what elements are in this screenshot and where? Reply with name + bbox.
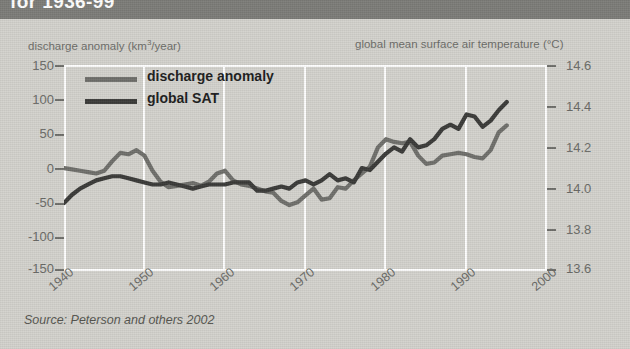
tick-right-14-0 [547, 188, 556, 190]
legend-label-discharge: discharge anomaly [147, 68, 274, 84]
legend: discharge anomaly global SAT [85, 69, 305, 113]
ytick-label-m50: -50 [8, 195, 54, 210]
tick-left-0 [55, 168, 64, 170]
line-discharge-anomaly [64, 125, 507, 205]
title-bar: for 1936-99 [0, 0, 630, 19]
legend-swatch-sat [85, 99, 137, 104]
tick-left-100 [55, 99, 64, 101]
tick-right-13-8 [547, 229, 556, 231]
tick-left-50 [55, 134, 64, 136]
ytick-label-m100: -100 [8, 229, 54, 244]
y2tick-label-14-2: 14.2 [566, 140, 591, 155]
ytick-label-m150: -150 [8, 261, 54, 276]
right-axis-title: global mean surface air temperature (°C) [355, 38, 564, 50]
y2tick-label-14-0: 14.0 [566, 181, 591, 196]
y2tick-label-13-6: 13.6 [566, 261, 591, 276]
y2tick-label-14-6: 14.6 [566, 58, 591, 73]
tick-right-14-2 [547, 147, 556, 149]
tick-right-14-4 [547, 106, 556, 108]
tick-left-m50 [55, 203, 64, 205]
tick-left-150 [55, 65, 64, 67]
tick-right-14-6 [547, 65, 556, 67]
y2tick-label-14-4: 14.4 [566, 99, 591, 114]
tick-left-m100 [55, 237, 64, 239]
ytick-label-0: 0 [8, 161, 54, 176]
figure-panel: for 1936-99 discharge anomaly (km3/year)… [0, 0, 630, 349]
ytick-label-50: 50 [8, 126, 54, 141]
plot-area: discharge anomaly global SAT [64, 65, 547, 271]
left-axis-title: discharge anomaly (km3/year) [28, 38, 181, 52]
legend-swatch-discharge [85, 77, 137, 82]
y2tick-label-13-8: 13.8 [566, 222, 591, 237]
ytick-label-100: 100 [8, 92, 54, 107]
source-note: Source: Peterson and others 2002 [24, 313, 214, 327]
page-title: for 1936-99 [10, 0, 115, 13]
ytick-label-150: 150 [8, 58, 54, 73]
legend-label-sat: global SAT [147, 90, 219, 106]
